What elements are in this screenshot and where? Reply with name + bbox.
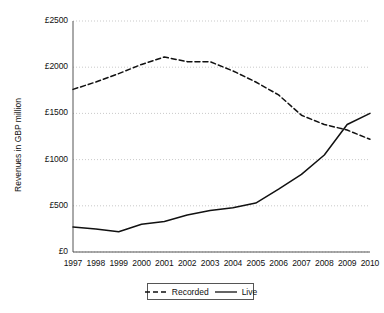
gridlines <box>73 21 370 252</box>
series-line-recorded <box>73 57 370 139</box>
y-tick-label: £500 <box>20 200 68 210</box>
legend-item-live: Live <box>214 287 258 297</box>
legend-label-recorded: Recorded <box>172 287 209 297</box>
y-tick-label: £1500 <box>20 107 68 117</box>
y-tick-label: £2500 <box>20 15 68 25</box>
y-tick-label: £2000 <box>20 61 68 71</box>
legend-label-live: Live <box>242 287 258 297</box>
series-line-live <box>73 113 370 231</box>
y-tick-label: £1000 <box>20 154 68 164</box>
dashed-line-icon <box>144 288 168 296</box>
chart-legend: Recorded Live <box>147 283 254 300</box>
legend-item-recorded: Recorded <box>144 287 209 297</box>
solid-line-icon <box>214 288 238 296</box>
y-tick-label: £0 <box>20 246 68 256</box>
x-tick-label: 2010 <box>356 258 384 268</box>
